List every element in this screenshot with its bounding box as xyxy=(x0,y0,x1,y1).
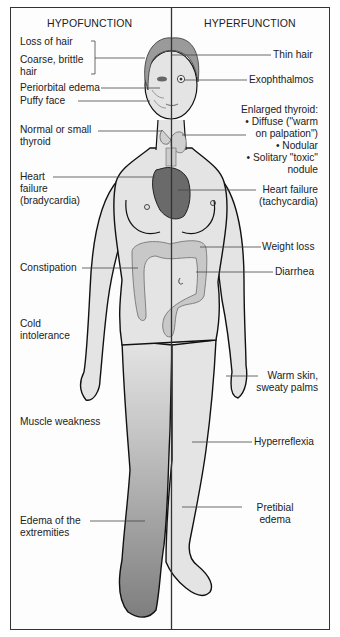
label-line: Pretibial xyxy=(250,502,300,514)
label-line: (bradycardia) xyxy=(20,195,80,207)
label-line: • Diffuse ("warm xyxy=(236,116,318,128)
label-weight-loss: Weight loss xyxy=(262,241,314,253)
label-line: nodule xyxy=(236,164,318,176)
label-line: Cold xyxy=(20,318,70,330)
label-line: failure xyxy=(20,183,80,195)
label-coarse-brittle-hair: Coarse, brittle hair xyxy=(20,54,83,78)
label-puffy-face: Puffy face xyxy=(20,95,65,107)
label-line: Normal or small xyxy=(20,124,91,136)
label-warm-skin-sweaty-palms: Warm skin, sweaty palms xyxy=(250,370,318,394)
label-cold-intolerance: Cold intolerance xyxy=(20,318,70,342)
label-loss-of-hair: Loss of hair xyxy=(20,36,73,48)
left-leg xyxy=(120,340,172,617)
right-leg xyxy=(166,340,216,595)
label-enlarged-thyroid: Enlarged thyroid: • Diffuse ("warm on pa… xyxy=(236,104,318,176)
label-exophthalmos: Exophthalmos xyxy=(249,74,314,86)
label-line: • Solitary "toxic" xyxy=(236,152,318,164)
label-thin-hair: Thin hair xyxy=(273,49,313,61)
label-edema-extremities: Edema of the extremities xyxy=(20,515,81,539)
heading-hypofunction: HYPOFUNCTION xyxy=(47,17,132,29)
label-line: Enlarged thyroid: xyxy=(236,104,318,116)
center-divider xyxy=(171,7,172,630)
label-line: Coarse, brittle xyxy=(20,54,83,66)
label-line: sweaty palms xyxy=(250,382,318,394)
label-heart-failure-tachycardia: Heart failure (tachycardia) xyxy=(250,184,318,208)
label-line: Heart xyxy=(20,171,80,183)
label-line: Warm skin, xyxy=(250,370,318,382)
heading-hyperfunction: HYPERFUNCTION xyxy=(204,17,296,29)
label-line: thyroid xyxy=(20,136,91,148)
label-heart-failure-bradycardia: Heart failure (bradycardia) xyxy=(20,171,80,207)
label-line: intolerance xyxy=(20,330,70,342)
label-pretibial-edema: Pretibial edema xyxy=(250,502,300,526)
label-constipation: Constipation xyxy=(20,262,77,274)
label-line: hair xyxy=(20,66,83,78)
label-line: • Nodular xyxy=(236,140,318,152)
label-diarrhea: Diarrhea xyxy=(275,266,314,278)
label-periorbital-edema: Periorbital edema xyxy=(20,82,100,94)
label-line: edema xyxy=(250,514,300,526)
label-hyperreflexia: Hyperreflexia xyxy=(254,436,314,448)
label-line: Edema of the xyxy=(20,515,81,527)
label-line: on palpation") xyxy=(236,128,318,140)
label-line: Heart failure xyxy=(250,184,318,196)
label-muscle-weakness: Muscle weakness xyxy=(20,416,100,428)
label-normal-small-thyroid: Normal or small thyroid xyxy=(20,124,91,148)
label-line: (tachycardia) xyxy=(250,196,318,208)
label-line: extremities xyxy=(20,527,81,539)
